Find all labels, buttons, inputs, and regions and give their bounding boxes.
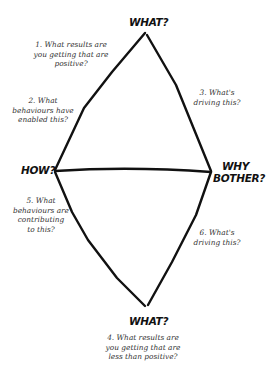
node-label-why: WHY <box>222 160 249 172</box>
edge-bottom-left <box>55 172 145 306</box>
question-4: 4. What results are you getting that are… <box>100 333 186 362</box>
question-5: 5. What behaviours are contributing to t… <box>12 196 70 234</box>
node-label-bother: BOTHER? <box>213 172 265 184</box>
node-label-top-what: WHAT? <box>129 16 168 28</box>
node-label-how: HOW? <box>21 164 55 176</box>
question-3: 3. What's driving this? <box>187 88 247 107</box>
question-6: 6. What's driving this? <box>184 228 250 247</box>
question-1: 1. What results are you getting that are… <box>28 40 114 69</box>
node-label-bottom-what: WHAT? <box>129 315 168 327</box>
question-2: 2. What behaviours have enabled this? <box>8 96 78 125</box>
edge-horizontal <box>55 169 211 172</box>
